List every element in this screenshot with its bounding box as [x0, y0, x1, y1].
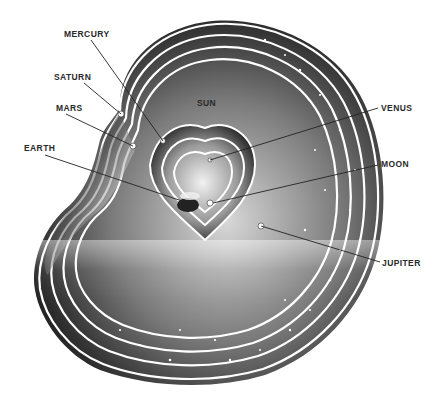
saturn-leader	[84, 83, 121, 114]
label-sun: SUN	[197, 99, 216, 108]
label-venus: VENUS	[381, 104, 412, 113]
label-mars: MARS	[56, 104, 83, 113]
moon-marker	[207, 200, 213, 206]
label-mercury: MERCURY	[64, 30, 109, 39]
label-earth: EARTH	[24, 144, 55, 153]
label-saturn: SATURN	[54, 73, 91, 82]
label-moon: MOON	[381, 160, 409, 169]
cosmos-heart-diagram	[0, 0, 437, 398]
label-jupiter: JUPITER	[382, 259, 421, 268]
